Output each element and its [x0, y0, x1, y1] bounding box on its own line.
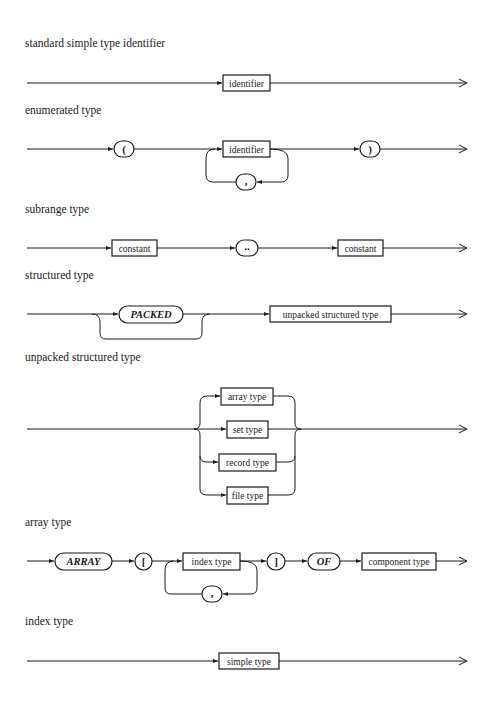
- node-label: array type: [228, 392, 266, 402]
- node-label: PACKED: [130, 309, 172, 320]
- diagram-unpacked-structured-type: [27, 388, 467, 504]
- node-label: constant: [119, 244, 151, 254]
- node-label: [: [142, 555, 146, 567]
- node-label: ,: [211, 587, 214, 599]
- node-label: ARRAY: [66, 556, 102, 567]
- node-label: ..: [244, 240, 250, 252]
- node-label: unpacked structured type: [283, 310, 379, 320]
- node-label: set type: [233, 425, 262, 435]
- node-label: simple type: [227, 657, 271, 667]
- node-label: OF: [317, 556, 332, 567]
- node-label: identifier: [229, 145, 265, 155]
- node-label: (: [122, 143, 126, 156]
- syntax-diagrams: identifier ( identifier , ) constant .. …: [0, 0, 491, 706]
- node-label: record type: [226, 458, 269, 468]
- node-label: ,: [245, 175, 248, 187]
- node-label: identifier: [229, 79, 265, 89]
- node-label: component type: [369, 557, 430, 567]
- node-label: ): [368, 143, 372, 156]
- node-label: file type: [232, 491, 263, 501]
- node-label: constant: [345, 244, 377, 254]
- node-label: ]: [274, 555, 278, 567]
- diagram-structured-type: [27, 306, 467, 339]
- node-label: index type: [192, 557, 232, 567]
